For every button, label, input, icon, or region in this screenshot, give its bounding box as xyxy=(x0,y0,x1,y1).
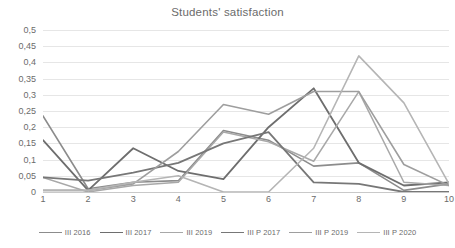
x-axis-tick-label: 6 xyxy=(266,194,271,204)
legend-label: III 2017 xyxy=(126,228,152,237)
y-axis: 0,50,450,40,350,30,250,20,150,10,050 xyxy=(0,30,40,192)
y-axis-tick-label: 0,05 xyxy=(18,171,36,181)
y-axis-tick-label: 0,15 xyxy=(18,138,36,148)
plot-area xyxy=(43,30,449,192)
y-axis-tick-label: 0 xyxy=(31,187,36,197)
gridline xyxy=(43,192,449,193)
legend-item[interactable]: III 2019 xyxy=(160,228,212,237)
legend-item[interactable]: III P 2019 xyxy=(289,228,348,237)
x-axis-tick-label: 3 xyxy=(131,194,136,204)
series-line xyxy=(43,132,449,192)
x-axis-tick-label: 9 xyxy=(401,194,406,204)
legend-label: III 2016 xyxy=(65,228,91,237)
x-axis-tick-label: 2 xyxy=(86,194,91,204)
legend-swatch xyxy=(160,232,183,233)
legend-swatch xyxy=(357,232,380,233)
legend-swatch xyxy=(100,232,123,233)
y-axis-tick-label: 0,2 xyxy=(23,122,36,132)
x-axis: 12345678910 xyxy=(43,194,449,210)
x-axis-tick-label: 7 xyxy=(311,194,316,204)
series-line xyxy=(43,56,449,192)
legend-swatch xyxy=(289,232,312,233)
chart-legend: III 2016III 2017III 2019III P 2017III P … xyxy=(0,224,455,240)
legend-swatch xyxy=(39,232,62,233)
legend-item[interactable]: III 2016 xyxy=(39,228,91,237)
y-axis-tick-label: 0,4 xyxy=(23,57,36,67)
students-satisfaction-chart: Students' satisfaction 0,50,450,40,350,3… xyxy=(0,0,455,248)
legend-label: III P 2020 xyxy=(383,228,416,237)
y-axis-tick-label: 0,35 xyxy=(18,74,36,84)
legend-item[interactable]: III P 2020 xyxy=(357,228,416,237)
chart-title: Students' satisfaction xyxy=(0,6,455,18)
y-axis-tick-label: 0,3 xyxy=(23,90,36,100)
x-axis-tick-label: 4 xyxy=(176,194,181,204)
x-axis-tick-label: 1 xyxy=(40,194,45,204)
y-axis-tick-label: 0,45 xyxy=(18,41,36,51)
x-axis-tick-label: 10 xyxy=(444,194,454,204)
x-axis-tick-label: 8 xyxy=(356,194,361,204)
legend-label: III 2019 xyxy=(186,228,212,237)
y-axis-tick-label: 0,25 xyxy=(18,106,36,116)
y-axis-tick-label: 0,1 xyxy=(23,155,36,165)
legend-item[interactable]: III 2017 xyxy=(100,228,152,237)
legend-label: III P 2019 xyxy=(315,228,348,237)
legend-swatch xyxy=(221,232,244,233)
x-axis-tick-label: 5 xyxy=(221,194,226,204)
legend-label: III P 2017 xyxy=(247,228,280,237)
y-axis-tick-label: 0,5 xyxy=(23,25,36,35)
legend-item[interactable]: III P 2017 xyxy=(221,228,280,237)
series-lines xyxy=(43,30,449,192)
